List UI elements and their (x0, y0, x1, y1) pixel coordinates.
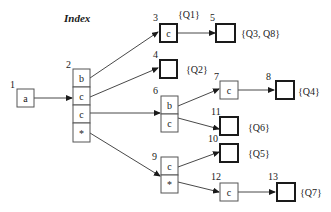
edge-9c-10 (178, 152, 219, 167)
node-4-queries: {Q2} (186, 64, 208, 75)
node-2-label: 2 (66, 59, 71, 70)
edge-2star-9 (90, 133, 160, 176)
node-1-cell-a: a (23, 93, 28, 104)
trie-index-diagram: Index 1 a 2 b c c * 3 c {Q1} (0, 0, 331, 212)
node-7-label: 7 (214, 71, 219, 82)
node-9-label: 9 (152, 151, 157, 162)
node-8-queries: {Q4} (298, 86, 320, 97)
node-11-queries: {Q6} (248, 122, 270, 133)
node-2-cell-star: * (79, 128, 84, 139)
node-7: 7 c (214, 71, 238, 99)
node-11-label: 11 (211, 106, 221, 117)
node-6-label: 6 (153, 85, 158, 96)
node-5-label: 5 (210, 12, 215, 23)
node-3-queries: {Q1} (178, 9, 200, 20)
edge-2c-4 (90, 68, 158, 97)
node-10: 10 {Q5} (208, 133, 270, 162)
node-2-cell-b: b (79, 73, 84, 84)
edge-6c-11 (178, 118, 219, 129)
node-9-cell-c: c (167, 161, 172, 172)
node-3-label: 3 (153, 12, 158, 23)
node-4-label: 4 (153, 49, 158, 60)
node-5: 5 {Q3, Q8} (210, 12, 280, 42)
node-11: 11 {Q6} (211, 106, 270, 135)
node-13-queries: {Q7} (300, 187, 322, 198)
edge-2b-3 (90, 32, 158, 78)
node-10-label: 10 (208, 133, 218, 144)
node-3-cell-c: c (166, 28, 171, 39)
node-4: 4 {Q2} (153, 49, 208, 78)
node-2-cell-c: c (79, 91, 84, 102)
node-6: 6 b c (153, 85, 178, 132)
node-2: 2 b c c * (66, 59, 90, 142)
node-5-queries: {Q3, Q8} (241, 28, 280, 39)
node-2-cell-c2: c (79, 109, 84, 120)
node-8-label: 8 (266, 71, 271, 82)
node-13: 13 {Q7} (268, 171, 322, 201)
node-9-cell-star: * (167, 179, 172, 190)
node-12-cell-c: c (227, 187, 232, 198)
node-8: 8 {Q4} (266, 71, 320, 99)
node-6-cell-c: c (167, 118, 172, 129)
node-13-label: 13 (268, 171, 278, 182)
diagram-title: Index (63, 12, 91, 24)
node-1: 1 a (10, 79, 34, 107)
edge-9star-12 (178, 182, 219, 192)
node-10-queries: {Q5} (248, 148, 270, 159)
node-6-cell-b: b (167, 100, 172, 111)
node-1-label: 1 (10, 79, 15, 90)
node-7-cell-c: c (227, 85, 232, 96)
node-3: 3 c {Q1} (153, 9, 200, 42)
node-12: 12 c (211, 171, 238, 201)
edge-6b-7 (178, 89, 219, 106)
node-12-label: 12 (211, 171, 221, 182)
node-9: 9 c * (152, 151, 178, 193)
